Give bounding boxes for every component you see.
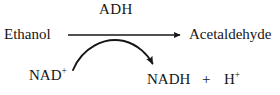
proton-base: H — [224, 71, 235, 87]
cofactor-in-charge: + — [62, 66, 67, 76]
cofactor-out-label: NADH — [147, 72, 190, 87]
proton-charge: + — [235, 70, 240, 80]
cofactor-curved-arrow — [73, 40, 153, 70]
proton-label: H+ — [224, 72, 240, 87]
cofactor-in-label: NAD+ — [29, 68, 67, 83]
cofactor-in-base: NAD — [29, 67, 62, 83]
plus-sign-label: + — [202, 72, 210, 87]
substrate-label: Ethanol — [4, 27, 51, 42]
product-label: Acetaldehyde — [189, 27, 271, 42]
reaction-diagram: ADH Ethanol Acetaldehyde NAD+ NADH + H+ — [0, 0, 280, 95]
enzyme-label: ADH — [99, 2, 133, 17]
